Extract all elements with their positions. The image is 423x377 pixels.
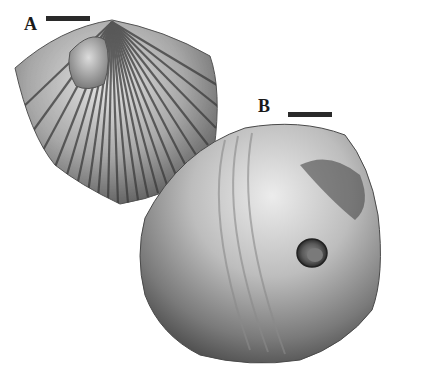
panel-label-b: B — [258, 96, 270, 117]
specimen-figure: A B — [0, 0, 423, 377]
bore-hole-center — [307, 248, 323, 262]
panel-label-a: A — [24, 14, 37, 35]
scale-bar-a — [46, 16, 90, 21]
shell-illustrations — [0, 0, 423, 377]
scale-bar-b — [288, 112, 332, 117]
